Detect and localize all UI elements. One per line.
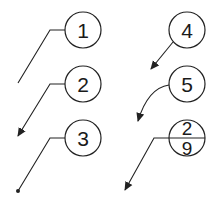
callout-4: 4 [151,12,205,69]
balloon-label: 2 [77,73,89,96]
callout-split: 2 9 [125,118,205,190]
leader-arrow [151,42,173,69]
callout-diagram: 1 2 3 4 5 2 9 [0,0,219,206]
callout-3: 3 [16,120,101,193]
leader-line [18,138,65,191]
balloon-label-bottom: 9 [182,138,193,159]
balloon-label-top: 2 [182,118,193,139]
balloon-label: 3 [77,127,89,150]
callout-5: 5 [138,66,205,121]
leader-dot-terminator [16,189,20,193]
leader-arrow [125,138,169,190]
balloon-label: 5 [181,73,193,96]
curved-leader-arrow [138,85,169,121]
balloon-label: 4 [181,19,193,42]
leader-arrow [18,84,65,136]
balloon-label: 1 [77,19,89,42]
leader-line [18,30,65,83]
